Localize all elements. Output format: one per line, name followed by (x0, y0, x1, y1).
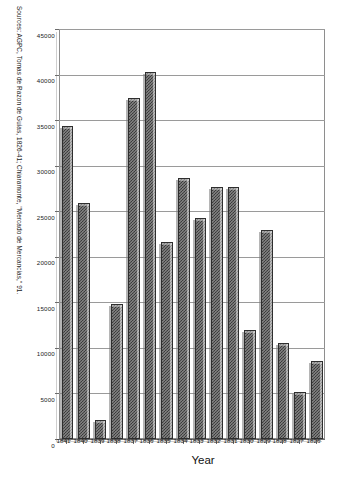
value-tick-label-35000: 35000 (37, 123, 55, 130)
category-label-1832: 1832 (207, 437, 221, 444)
bar-row (211, 29, 223, 439)
bar-1841 (62, 126, 74, 439)
bar-1832 (211, 187, 223, 439)
bar-row (145, 29, 157, 439)
value-tick-label-10000: 10000 (37, 350, 55, 357)
category-label-1831: 1831 (223, 437, 237, 444)
chart-canvas: 0500010000150002000025000300003500040000… (0, 0, 341, 479)
bar-1837 (128, 98, 140, 439)
bar-row (111, 29, 123, 439)
category-label-1838: 1838 (107, 437, 121, 444)
bar-row (311, 29, 323, 439)
category-label-1830: 1830 (240, 437, 254, 444)
category-label-1836: 1836 (140, 437, 154, 444)
bar-row (161, 29, 173, 439)
value-tick-label-25000: 25000 (37, 214, 55, 221)
bar-row (178, 29, 190, 439)
category-label-1837: 1837 (123, 437, 137, 444)
value-tick-label-0: 0 (51, 442, 55, 449)
bar-row (78, 29, 90, 439)
value-tick (55, 348, 59, 349)
value-axis-ticks (55, 29, 59, 439)
bar-1838 (111, 304, 123, 439)
bar-series (59, 29, 325, 439)
category-label-1828: 1828 (273, 437, 287, 444)
axis-title-year: Year (191, 454, 214, 466)
bar-1829 (261, 230, 273, 439)
value-tick-label-45000: 45000 (37, 32, 55, 39)
bar-1828 (278, 343, 290, 439)
bar-1826 (311, 361, 323, 439)
bar-row (195, 29, 207, 439)
value-tick-label-30000: 30000 (37, 168, 55, 175)
value-tick (55, 29, 59, 30)
bar-1834 (178, 178, 190, 439)
category-label-1829: 1829 (256, 437, 270, 444)
category-label-1827: 1827 (290, 437, 304, 444)
value-tick-label-5000: 5000 (40, 396, 55, 403)
bar-row (244, 29, 256, 439)
bar-1836 (145, 72, 157, 439)
value-tick (55, 166, 59, 167)
rotated-figure: 0500010000150002000025000300003500040000… (0, 0, 341, 479)
bar-row (278, 29, 290, 439)
category-label-1840: 1840 (74, 437, 88, 444)
bar-1827 (294, 392, 306, 439)
bar-row (95, 29, 107, 439)
bar-row (62, 29, 74, 439)
value-tick-label-40000: 40000 (37, 77, 55, 84)
bar-1840 (78, 203, 90, 439)
category-label-1841: 1841 (57, 437, 71, 444)
value-tick (55, 393, 59, 394)
category-label-1839: 1839 (90, 437, 104, 444)
bar-row (294, 29, 306, 439)
bar-1833 (195, 218, 207, 439)
bar-1831 (228, 187, 240, 439)
bar-row (128, 29, 140, 439)
value-tick-label-15000: 15000 (37, 305, 55, 312)
value-tick (55, 120, 59, 121)
value-tick (55, 75, 59, 76)
value-tick (55, 211, 59, 212)
category-label-1835: 1835 (157, 437, 171, 444)
value-axis-labels: 0500010000150002000025000300003500040000… (5, 29, 55, 439)
bar-row (261, 29, 273, 439)
value-tick-label-20000: 20000 (37, 259, 55, 266)
value-tick (55, 257, 59, 258)
bar-1830 (244, 330, 256, 439)
bar-row (228, 29, 240, 439)
category-label-1826: 1826 (306, 437, 320, 444)
plot-area (59, 29, 325, 439)
category-label-1834: 1834 (173, 437, 187, 444)
bar-1835 (161, 242, 173, 439)
value-tick (55, 302, 59, 303)
category-label-1833: 1833 (190, 437, 204, 444)
